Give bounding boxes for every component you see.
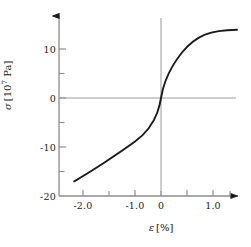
- x-axis-symbol: ε: [149, 222, 154, 233]
- y-axis-minor-ticks: [59, 74, 65, 172]
- x-axis-minor-ticks: [109, 191, 230, 196]
- y-axis-unit-close: Pa]: [2, 61, 13, 80]
- origin-crosshair-axes: [59, 18, 236, 196]
- x-axis-spine: [59, 190, 238, 196]
- x-axis-major-ticks: [83, 190, 213, 196]
- y-tick-label-0: 0: [50, 93, 56, 104]
- x-tick-label-minus-1: -1.0: [125, 200, 144, 211]
- y-axis-unit-exponent: 7: [0, 80, 9, 85]
- stress-strain-chart-figure: -2.0 -1.0 0 1.0 10 0 -10 -20 ε [%] σ [10…: [0, 0, 251, 247]
- y-tick-label-10: 10: [44, 44, 57, 55]
- y-axis-unit-open: [10: [2, 85, 13, 102]
- x-tick-label-zero: 0: [158, 200, 164, 211]
- stress-strain-curve: [74, 30, 237, 182]
- x-axis-title: ε [%]: [149, 222, 174, 233]
- x-axis-unit: [%]: [156, 222, 173, 233]
- y-axis-symbol: σ: [2, 103, 13, 110]
- y-tick-label-minus-10: -10: [40, 142, 56, 153]
- y-axis-spine: [59, 16, 66, 196]
- x-tick-label-minus-2: -2.0: [73, 200, 92, 211]
- y-axis-title: σ [107 Pa]: [2, 61, 13, 110]
- x-tick-label-plus-1: 1.0: [205, 200, 221, 211]
- y-tick-label-minus-20: -20: [40, 191, 56, 202]
